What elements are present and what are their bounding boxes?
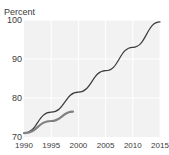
plot-area bbox=[0, 0, 169, 155]
y-tick-label: 100 bbox=[0, 16, 22, 25]
x-tick-label: 1990 bbox=[11, 141, 37, 150]
chart-svg bbox=[0, 0, 169, 155]
y-tick-label: 80 bbox=[0, 94, 22, 103]
x-tick-label: 2010 bbox=[120, 141, 146, 150]
plot-background bbox=[24, 20, 160, 137]
y-tick-label: 90 bbox=[0, 55, 22, 64]
x-tick-label: 2005 bbox=[93, 141, 119, 150]
x-tick-label: 1995 bbox=[38, 141, 64, 150]
x-tick-label: 2015 bbox=[147, 141, 169, 150]
x-tick-label: 2000 bbox=[65, 141, 91, 150]
chart-figure: Percent 708090100 1990199520002005201020… bbox=[0, 0, 169, 155]
